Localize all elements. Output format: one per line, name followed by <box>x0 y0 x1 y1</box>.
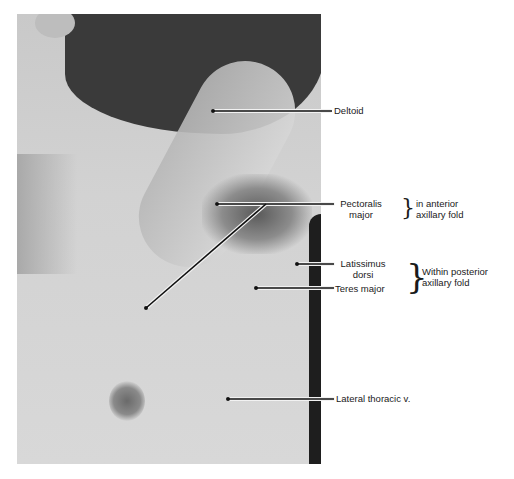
label-latissimus-line1: Latissimus <box>335 258 391 269</box>
anterior-fold-line2: axillary fold <box>416 209 464 220</box>
posterior-fold-line1: Within posterior <box>422 266 488 277</box>
label-pectoralis-line1: Pectoralis <box>335 198 387 209</box>
label-teres-major: Teres major <box>335 283 385 294</box>
label-lateral-thoracic-vein: Lateral thoracic v. <box>336 393 410 404</box>
label-pectoralis-major: Pectoralis major <box>335 198 387 220</box>
label-pectoralis-line2: major <box>335 209 387 220</box>
label-posterior-axillary-fold: Within posterior axillary fold <box>422 266 488 288</box>
leader-lines <box>0 0 514 479</box>
brace-anterior: } <box>401 196 415 220</box>
label-deltoid: Deltoid <box>334 105 364 116</box>
posterior-fold-line2: axillary fold <box>422 277 488 288</box>
anterior-fold-line1: in anterior <box>416 198 464 209</box>
pectoralis-diagonal-leader <box>146 204 266 308</box>
label-anterior-axillary-fold: in anterior axillary fold <box>416 198 464 220</box>
label-latissimus-dorsi: Latissimus dorsi <box>335 258 391 280</box>
label-latissimus-line2: dorsi <box>335 269 391 280</box>
